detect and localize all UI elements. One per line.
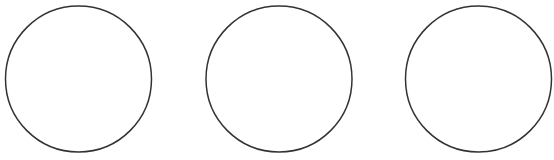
diagram-canvas bbox=[0, 0, 554, 160]
circle-2 bbox=[206, 6, 352, 152]
circle-1 bbox=[6, 6, 152, 152]
circle-3 bbox=[406, 6, 552, 152]
